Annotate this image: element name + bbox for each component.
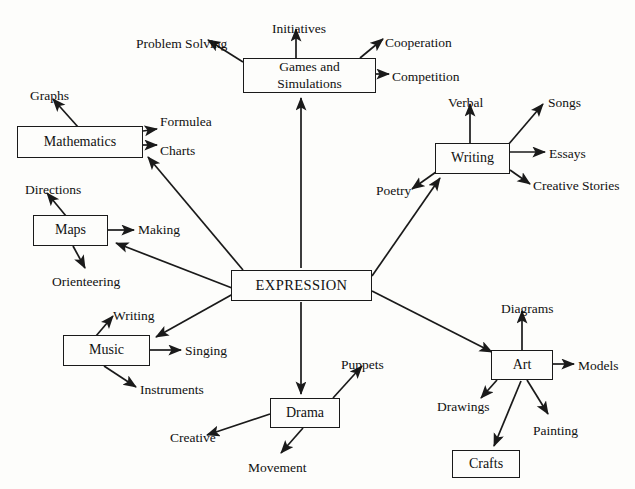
leaf-creative-stories: Creative Stories [533,178,620,194]
node-art-label: Art [513,357,532,373]
edge-art-crafts [494,381,521,446]
leaf-initiatives: Initiatives [272,21,326,37]
leaf-songs: Songs [548,95,581,111]
edge-music-writing [96,316,113,336]
leaf-poetry: Poetry [376,183,411,199]
node-crafts[interactable]: Crafts [452,450,520,478]
leaf-making: Making [138,222,180,238]
leaf-essays: Essays [549,146,586,162]
leaf-drawings: Drawings [437,399,490,415]
node-mathematics-label: Mathematics [44,134,116,150]
leaf-cooperation: Cooperation [385,35,452,51]
edge-expression-music [156,294,233,337]
leaf-movement: Movement [248,460,307,476]
node-music[interactable]: Music [63,335,150,366]
node-music-label: Music [89,342,124,358]
edge-expression-art [372,291,492,352]
leaf-music-writing: Writing [113,308,154,324]
node-art[interactable]: Art [491,350,553,380]
node-games-and-simulations[interactable]: Games and Simulations [243,58,376,93]
edge-art-drawings [481,380,497,398]
leaf-competition: Competition [392,69,460,85]
edge-drama-movement [281,428,303,453]
edge-writing-poetry [412,172,436,189]
edge-writing-songs [508,104,543,145]
node-drama-label: Drama [286,405,324,421]
edge-art-painting [527,380,548,414]
edge-writing-creative-stories [510,170,530,184]
node-maps-label: Maps [55,222,86,238]
leaf-formulea: Formulea [160,114,212,130]
edge-mathematics-formulea [143,129,157,131]
node-mathematics[interactable]: Mathematics [17,126,143,158]
leaf-orienteering: Orienteering [52,274,120,290]
leaf-charts: Charts [160,143,195,159]
edge-music-instruments [104,366,136,387]
edge-expression-mathematics [148,157,243,270]
node-writing[interactable]: Writing [435,143,510,174]
edge-games-cooperation [360,39,383,58]
edge-expression-maps [116,243,232,288]
node-drama[interactable]: Drama [270,398,340,428]
leaf-diagrams: Diagrams [501,301,553,317]
node-crafts-label: Crafts [469,456,503,472]
node-expression[interactable]: EXPRESSION [231,270,372,301]
node-writing-label: Writing [451,150,494,166]
node-games-label-line1: Games and [279,59,339,76]
leaf-problem-solving: Problem Solving [136,36,227,52]
leaf-puppets: Puppets [341,357,384,373]
edge-maps-orienteering [73,246,85,268]
leaf-creative: Creative [170,430,216,446]
leaf-painting: Painting [533,423,578,439]
node-games-label-line2: Simulations [277,76,342,93]
mind-map-diagram: EXPRESSION Mathematics Graphs Formulea C… [0,0,635,489]
leaf-verbal: Verbal [448,95,483,111]
leaf-instruments: Instruments [140,382,204,398]
edge-drama-creative [207,414,270,435]
node-expression-label: EXPRESSION [256,277,348,294]
node-maps[interactable]: Maps [33,215,108,246]
leaf-models: Models [578,358,619,374]
leaf-directions: Directions [25,182,81,198]
leaf-graphs: Graphs [30,88,69,104]
leaf-singing: Singing [185,343,227,359]
